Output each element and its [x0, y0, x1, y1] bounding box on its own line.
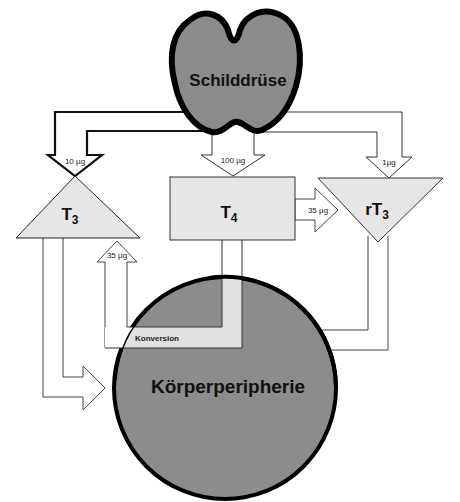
- edge-label-thyroid-t4: 100 µg: [221, 156, 246, 165]
- edge-label-conversion-t3: 35 µg: [107, 251, 127, 260]
- edge-label-t4-rt3: 35 µg: [308, 206, 328, 215]
- t3-node: T3: [16, 176, 140, 238]
- edge-label-thyroid-rt3: 1µg: [382, 158, 396, 167]
- t3-label: T: [61, 205, 72, 224]
- rt3-label: rT: [365, 200, 383, 219]
- t4-node: T4: [170, 177, 295, 240]
- edge-label-thyroid-t3: 10 µg: [65, 157, 85, 166]
- thyroid-node: Schilddrüse: [172, 12, 300, 133]
- t3-subscript: 3: [72, 213, 79, 227]
- thyroid-label: Schilddrüse: [189, 71, 286, 90]
- t4-label: T: [220, 203, 231, 222]
- t4-subscript: 4: [231, 211, 238, 225]
- arrow-t3-to-periphery: [43, 238, 105, 410]
- rt3-subscript: 3: [382, 208, 389, 222]
- arrow-thyroid-to-t4: [201, 130, 265, 176]
- thyroid-hormone-diagram: Schilddrüse Konversion Körperperi: [0, 0, 460, 502]
- periphery-label: Körperperipherie: [151, 376, 305, 397]
- conversion-label: Konversion: [135, 334, 179, 343]
- arrow-thyroid-to-rt3: [262, 112, 412, 178]
